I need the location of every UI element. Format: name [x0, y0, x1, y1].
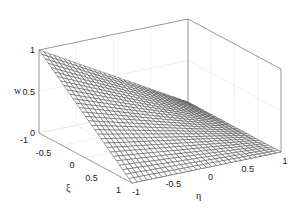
svg-text:0: 0	[208, 172, 213, 182]
svg-text:0: 0	[30, 128, 35, 138]
svg-text:-1: -1	[20, 135, 28, 145]
svg-text:1: 1	[116, 185, 121, 195]
surface-plot: 00.51-1-0.500.51-1-0.500.51 w ξ η	[0, 0, 299, 216]
svg-text:-0.5: -0.5	[36, 148, 52, 158]
svg-text:0.5: 0.5	[241, 164, 254, 174]
svg-text:-1: -1	[132, 187, 140, 197]
svg-text:-0.5: -0.5	[165, 179, 181, 189]
y-axis-label: η	[196, 190, 201, 201]
svg-text:0.5: 0.5	[85, 173, 98, 183]
svg-text:0: 0	[69, 160, 74, 170]
svg-text:0.5: 0.5	[22, 87, 35, 97]
svg-text:1: 1	[30, 45, 35, 55]
x-axis-label: ξ	[66, 182, 71, 194]
svg-text:1: 1	[282, 156, 287, 166]
z-axis-label: w	[14, 85, 22, 96]
